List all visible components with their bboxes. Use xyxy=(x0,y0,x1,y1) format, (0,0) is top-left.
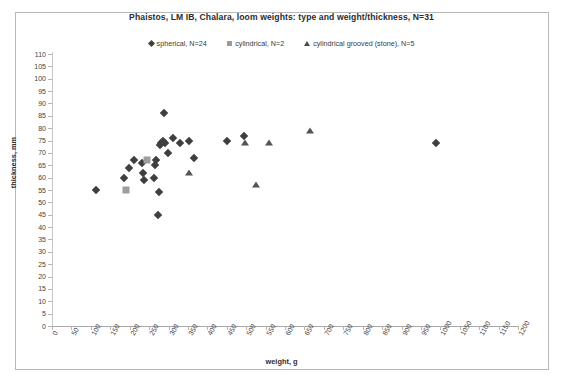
data-point-diamond xyxy=(432,139,440,147)
data-point-diamond xyxy=(149,173,157,181)
data-point-square xyxy=(122,187,129,194)
y-tick-label: 20 xyxy=(20,273,46,280)
legend-item-cylindrical-grooved: cylindrical grooved (stone), N=5 xyxy=(304,40,414,47)
y-tick-label: 15 xyxy=(20,285,46,292)
y-tick-label: 10 xyxy=(20,298,46,305)
legend-item-spherical: spherical, N=24 xyxy=(149,40,207,47)
y-tick-label: 35 xyxy=(20,236,46,243)
y-tick-label: 30 xyxy=(20,248,46,255)
y-tick-label: 60 xyxy=(20,174,46,181)
data-point-diamond xyxy=(160,109,168,117)
y-tick-label: 75 xyxy=(20,137,46,144)
legend-label-cylindrical: cylindrical, N=2 xyxy=(235,40,284,47)
data-point-triangle xyxy=(265,140,273,146)
y-tick-label: 55 xyxy=(20,187,46,194)
y-tick-label: 50 xyxy=(20,199,46,206)
data-point-diamond xyxy=(223,136,231,144)
y-tick-label: 25 xyxy=(20,261,46,268)
y-tick-label: 95 xyxy=(20,88,46,95)
legend-item-cylindrical: cylindrical, N=2 xyxy=(227,40,284,47)
y-tick-label: 70 xyxy=(20,149,46,156)
plot-area xyxy=(52,54,518,326)
data-point-square xyxy=(144,157,151,164)
data-point-diamond xyxy=(176,139,184,147)
data-point-triangle xyxy=(252,182,260,188)
diamond-marker-icon xyxy=(148,40,155,47)
data-point-diamond xyxy=(92,186,100,194)
y-tick-label: 90 xyxy=(20,100,46,107)
y-tick-label: 65 xyxy=(20,162,46,169)
data-point-diamond xyxy=(153,210,161,218)
x-axis-title: weight, g xyxy=(0,357,563,366)
data-point-triangle xyxy=(306,127,314,133)
data-point-diamond xyxy=(189,154,197,162)
y-tick-label: 0 xyxy=(20,323,46,330)
y-tick-label: 85 xyxy=(20,112,46,119)
y-axis-title: thickness, mm xyxy=(9,113,18,213)
triangle-marker-icon xyxy=(304,41,310,46)
y-tick-label: 105 xyxy=(20,63,46,70)
data-point-diamond xyxy=(140,176,148,184)
data-point-diamond xyxy=(163,149,171,157)
square-marker-icon xyxy=(227,41,233,47)
legend-label-spherical: spherical, N=24 xyxy=(157,40,207,47)
y-tick-label: 100 xyxy=(20,75,46,82)
y-tick-label: 110 xyxy=(20,51,46,58)
y-tick-label: 80 xyxy=(20,125,46,132)
data-point-diamond xyxy=(155,188,163,196)
data-point-triangle xyxy=(241,140,249,146)
chart-title: Phaistos, LM IB, Chalara, loom weights: … xyxy=(0,12,563,22)
scatter-chart-figure: Phaistos, LM IB, Chalara, loom weights: … xyxy=(0,0,563,384)
chart-legend: spherical, N=24 cylindrical, N=2 cylindr… xyxy=(0,40,563,47)
data-point-diamond xyxy=(120,173,128,181)
y-tick-label: 45 xyxy=(20,211,46,218)
data-point-triangle xyxy=(185,169,193,175)
data-point-diamond xyxy=(184,136,192,144)
legend-label-cylindrical-grooved: cylindrical grooved (stone), N=5 xyxy=(313,40,414,47)
data-point-diamond xyxy=(125,163,133,171)
y-tick-label: 5 xyxy=(20,310,46,317)
y-tick-label: 40 xyxy=(20,224,46,231)
